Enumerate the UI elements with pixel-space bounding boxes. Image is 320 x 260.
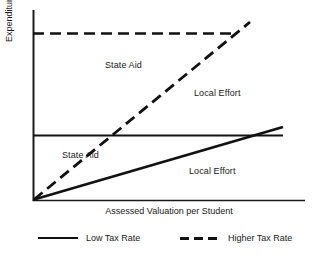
chart-figure: Expenditure per Student Assessed Valuati… xyxy=(0,0,320,260)
legend-label-higher-tax-rate: Higher Tax Rate xyxy=(228,233,292,243)
annotation-state-aid-lower: State Aid xyxy=(62,151,99,160)
low-tax-rate-local-effort-line xyxy=(34,127,283,200)
y-axis-title: Expenditure per Student xyxy=(4,0,14,42)
legend-item-higher-tax-rate: Higher Tax Rate xyxy=(180,230,292,246)
annotation-state-aid-upper: State Aid xyxy=(105,61,142,70)
chart-plot-area xyxy=(0,0,320,260)
annotation-local-effort-upper: Local Effort xyxy=(194,89,241,98)
legend-item-low-tax-rate: Low Tax Rate xyxy=(38,230,140,246)
solid-line-swatch-icon xyxy=(38,233,78,243)
x-axis-title: Assessed Valuation per Student xyxy=(33,206,305,216)
chart-legend: Low Tax Rate Higher Tax Rate xyxy=(0,230,320,252)
annotation-local-effort-lower: Local Effort xyxy=(189,167,236,176)
dashed-line-swatch-icon xyxy=(180,233,220,243)
legend-label-low-tax-rate: Low Tax Rate xyxy=(86,233,140,243)
